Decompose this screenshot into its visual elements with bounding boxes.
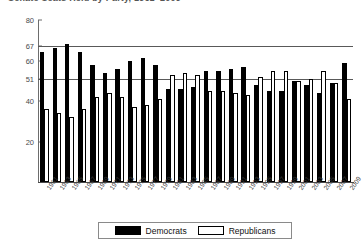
bar-republicans: [120, 97, 124, 182]
x-label-cell: 1963: [51, 183, 64, 223]
x-label-cell: 1981: [164, 183, 177, 223]
bar-group: [114, 20, 127, 182]
bar-republicans: [334, 83, 338, 182]
x-label-cell: 1975: [126, 183, 139, 223]
x-label-cell: 1991: [227, 183, 240, 223]
chart-title: Senate Seats Held by Party, 1961–2009: [8, 0, 181, 3]
x-label-cell: 1961: [38, 183, 51, 223]
bar-republicans: [183, 73, 187, 182]
bar-group: [240, 20, 253, 182]
x-label-cell: 2009: [340, 183, 353, 223]
x-label-cell: 1967: [76, 183, 89, 223]
x-label-cell: 1973: [114, 183, 127, 223]
bar-republicans: [284, 71, 288, 182]
y-tick-label: 20: [10, 137, 34, 146]
bar-group: [290, 20, 303, 182]
y-tick-label: 67: [10, 42, 34, 51]
bar-group: [214, 20, 227, 182]
x-label-cell: 2005: [315, 183, 328, 223]
chart-legend: Democrats Republicans: [98, 222, 292, 239]
bar-group: [88, 20, 101, 182]
legend-item-democrats: Democrats: [115, 226, 187, 236]
x-label-cell: 1999: [277, 183, 290, 223]
bar-republicans: [132, 107, 136, 182]
bar-group: [139, 20, 152, 182]
bar-group: [189, 20, 202, 182]
x-label-cell: 1979: [151, 183, 164, 223]
bar-republicans: [221, 91, 225, 182]
bar-republicans: [44, 109, 48, 182]
bar-group: [164, 20, 177, 182]
bar-group: [151, 20, 164, 182]
bar-group: [126, 20, 139, 182]
bar-group: [51, 20, 64, 182]
bar-republicans: [246, 95, 250, 182]
bar-group: [315, 20, 328, 182]
bar-republicans: [271, 71, 275, 182]
x-axis-labels: 1961196319651967196919711973197519771979…: [38, 183, 353, 223]
bar-group: [38, 20, 51, 182]
bar-group: [302, 20, 315, 182]
x-label-cell: 1989: [214, 183, 227, 223]
bar-group: [265, 20, 278, 182]
y-tick-label: 51: [10, 74, 34, 83]
bar-group: [340, 20, 353, 182]
bar-republicans: [208, 91, 212, 182]
bar-republicans: [195, 75, 199, 182]
plot-area: [38, 20, 353, 182]
y-tick-label: 40: [10, 97, 34, 106]
x-label-cell: 1995: [252, 183, 265, 223]
bar-republicans: [107, 93, 111, 182]
bar-republicans: [258, 77, 262, 182]
x-label-cell: 1969: [88, 183, 101, 223]
bar-republicans: [82, 109, 86, 182]
bar-republicans: [309, 79, 313, 182]
bar-republicans: [347, 99, 351, 182]
x-label-cell: 1997: [265, 183, 278, 223]
bar-republicans: [233, 93, 237, 182]
bar-republicans: [321, 71, 325, 182]
x-label-cell: 2007: [328, 183, 341, 223]
bar-republicans: [158, 99, 162, 182]
bar-group: [328, 20, 341, 182]
legend-swatch-republicans: [198, 226, 224, 235]
x-label-cell: 1965: [63, 183, 76, 223]
x-label-cell: 1985: [189, 183, 202, 223]
legend-label-democrats: Democrats: [146, 226, 187, 236]
legend-label-republicans: Republicans: [229, 226, 276, 236]
y-tick-label: 60: [10, 56, 34, 65]
bar-group: [252, 20, 265, 182]
bar-groups: [38, 20, 353, 182]
x-label-cell: 1977: [139, 183, 152, 223]
x-label-cell: 2003: [302, 183, 315, 223]
x-label-cell: 1993: [240, 183, 253, 223]
x-label-cell: 1987: [202, 183, 215, 223]
bar-republicans: [95, 97, 99, 182]
bar-republicans: [145, 105, 149, 182]
bar-group: [227, 20, 240, 182]
bar-group: [76, 20, 89, 182]
bar-group: [63, 20, 76, 182]
bar-republicans: [57, 113, 61, 182]
y-tick-label: 80: [10, 16, 34, 25]
bar-republicans: [170, 75, 174, 182]
bar-group: [277, 20, 290, 182]
bar-group: [101, 20, 114, 182]
bar-republicans: [296, 81, 300, 182]
bar-group: [177, 20, 190, 182]
x-label-cell: 2001: [290, 183, 303, 223]
x-label-cell: 1971: [101, 183, 114, 223]
legend-item-republicans: Republicans: [198, 226, 276, 236]
legend-swatch-democrats: [115, 226, 141, 235]
x-label-cell: 1983: [177, 183, 190, 223]
bar-republicans: [69, 117, 73, 182]
bar-group: [202, 20, 215, 182]
